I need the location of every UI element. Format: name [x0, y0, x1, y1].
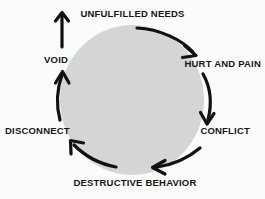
stage-label-unfulfilled-needs: UNFULFILLED NEEDS: [80, 9, 184, 19]
arrow-hurt-to-conflict-shaft: [203, 74, 210, 120]
stage-label-void: VOID: [44, 55, 68, 65]
stage-label-conflict: CONFLICT: [200, 126, 250, 136]
stage-label-destructive-behavior: DESTRUCTIVE BEHAVIOR: [73, 178, 196, 188]
cycle-diagram: UNFULFILLED NEEDS HURT AND PAIN CONFLICT…: [0, 0, 265, 199]
cycle-graphics: [0, 0, 265, 199]
stage-label-hurt-and-pain: HURT AND PAIN: [185, 59, 262, 69]
stage-label-disconnect: DISCONNECT: [5, 126, 70, 136]
